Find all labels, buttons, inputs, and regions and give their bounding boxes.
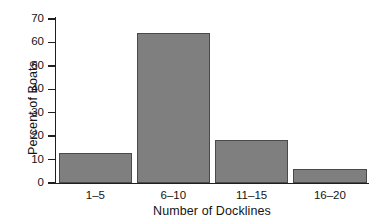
y-axis-tick	[48, 182, 55, 183]
x-axis-line	[55, 183, 369, 184]
y-axis-tick	[48, 18, 55, 19]
y-axis-tick-label: 40	[0, 83, 44, 95]
y-axis-tick-label: 70	[0, 13, 44, 25]
y-axis-tick-label: 0	[0, 177, 44, 189]
bar	[59, 153, 132, 183]
y-axis-tick	[48, 159, 55, 160]
x-axis-tick-label: 16–20	[290, 189, 370, 201]
bar	[293, 169, 366, 183]
bar	[215, 140, 288, 183]
bar	[137, 33, 210, 183]
x-axis-tick-label: 6–10	[133, 189, 213, 201]
y-axis-tick-label: 50	[0, 60, 44, 72]
y-axis-tick-label: 30	[0, 107, 44, 119]
y-axis-tick	[48, 89, 55, 90]
y-axis-tick-label: 20	[0, 130, 44, 142]
y-axis-tick	[48, 42, 55, 43]
x-axis-tick-label: 11–15	[212, 189, 292, 201]
y-axis-line	[55, 17, 56, 184]
y-axis-tick	[48, 112, 55, 113]
y-axis-tick-label: 10	[0, 154, 44, 166]
y-axis-tick	[48, 135, 55, 136]
y-axis-tick	[48, 65, 55, 66]
x-axis-title: Number of Docklines	[55, 204, 369, 218]
y-axis-tick-label: 60	[0, 36, 44, 48]
bar-chart: Percent of Boats 706050403020100 1–56–10…	[0, 0, 378, 224]
x-axis-tick-label: 1–5	[55, 189, 135, 201]
